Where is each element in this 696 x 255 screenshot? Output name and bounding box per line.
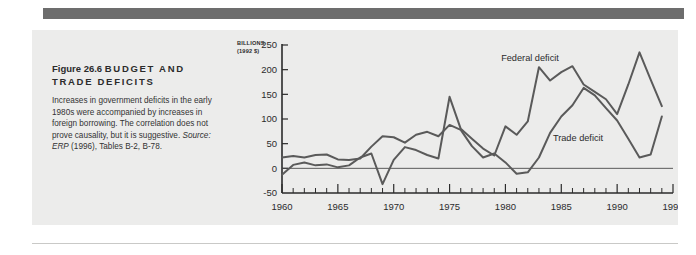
y-tick-label: 150 bbox=[261, 89, 277, 100]
y-tick-label: -50 bbox=[263, 187, 277, 198]
y-tick-label: 50 bbox=[266, 138, 277, 149]
y-axis-ticks bbox=[282, 45, 288, 168]
figure-title-line2: TRADE DEFICITS bbox=[52, 76, 154, 87]
y-axis-unit-line2: (1992 $) bbox=[237, 48, 259, 54]
federal-deficit-line bbox=[282, 52, 662, 184]
top-decorative-bar bbox=[43, 8, 684, 19]
x-tick-label: 1995 bbox=[662, 201, 678, 212]
y-tick-label: 200 bbox=[261, 64, 277, 75]
figure-number: Figure 26.6 bbox=[52, 63, 102, 74]
figure-page: Figure 26.6 BUDGET AND TRADE DEFICITS In… bbox=[0, 0, 696, 255]
y-tick-label: 100 bbox=[261, 113, 277, 124]
figure-description: Increases in government deficits in the … bbox=[52, 95, 224, 153]
x-tick-label: 1985 bbox=[551, 201, 572, 212]
x-tick-label: 1970 bbox=[383, 201, 404, 212]
figure-title-line1: BUDGET AND bbox=[105, 63, 185, 74]
caption-source-prefix: Source: bbox=[182, 131, 210, 140]
bottom-divider bbox=[32, 243, 678, 244]
x-axis-tick-labels: 19601965197019751980198519901995 bbox=[271, 201, 678, 212]
x-tick-label: 1965 bbox=[327, 201, 348, 212]
x-axis-ticks bbox=[282, 184, 673, 193]
deficits-line-chart: BILLIONS (1992 $) -50050100150200250 196… bbox=[232, 36, 678, 222]
caption-source-tables: (1996), Tables B-2, B-78. bbox=[69, 142, 162, 151]
x-tick-label: 1975 bbox=[439, 201, 460, 212]
caption-source-publication: ERP bbox=[52, 142, 69, 151]
trade-deficit-line bbox=[282, 88, 662, 174]
chart-area: BILLIONS (1992 $) -50050100150200250 196… bbox=[232, 36, 678, 222]
federal-deficit-label: Federal deficit bbox=[501, 53, 559, 63]
y-tick-label: 0 bbox=[272, 163, 277, 174]
figure-caption-block: Figure 26.6 BUDGET AND TRADE DEFICITS In… bbox=[52, 62, 224, 153]
x-tick-label: 1990 bbox=[607, 201, 628, 212]
x-tick-label: 1980 bbox=[495, 201, 516, 212]
figure-title: Figure 26.6 BUDGET AND TRADE DEFICITS bbox=[52, 62, 224, 88]
x-tick-label: 1960 bbox=[271, 201, 292, 212]
trade-deficit-label: Trade deficit bbox=[553, 133, 604, 143]
y-tick-label: 250 bbox=[261, 39, 277, 50]
y-axis-tick-labels: -50050100150200250 bbox=[261, 39, 277, 198]
